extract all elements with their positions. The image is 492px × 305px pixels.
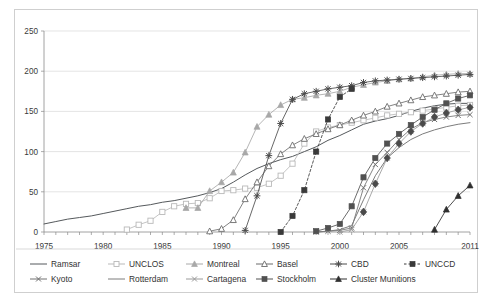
y-tick-label: 0 <box>33 228 38 237</box>
data-point-marker <box>432 226 438 232</box>
data-point-marker <box>325 85 332 92</box>
data-point-marker <box>219 226 225 232</box>
x-tick-label: 1975 <box>35 242 54 251</box>
data-point-marker <box>432 107 437 112</box>
data-point-marker <box>230 217 236 223</box>
data-point-marker <box>124 227 129 232</box>
data-point-marker <box>455 72 462 79</box>
data-point-marker <box>219 179 225 185</box>
legend-label: Kyoto <box>51 274 73 284</box>
data-point-marker <box>385 113 390 118</box>
x-tick-label: 2000 <box>331 242 350 251</box>
y-axis-tick-labels: 050100150200250 <box>24 27 38 237</box>
data-point-marker <box>431 73 438 80</box>
data-point-marker <box>278 102 284 108</box>
data-point-marker <box>384 77 391 84</box>
data-point-marker <box>265 152 272 159</box>
x-tick-label: 1990 <box>212 242 231 251</box>
data-point-marker <box>290 213 295 218</box>
legend-label: Basel <box>277 259 298 269</box>
data-point-marker <box>114 262 119 267</box>
series-line <box>127 105 470 230</box>
legend-label: Rotterdam <box>129 274 168 284</box>
data-point-marker <box>313 88 320 95</box>
data-point-marker <box>335 261 342 268</box>
data-point-marker <box>373 162 378 167</box>
data-point-marker <box>373 155 378 160</box>
y-tick-label: 50 <box>29 188 39 197</box>
chart-legend: RamsarUNCLOSMontrealBaselCBDUNCCDKyotoRo… <box>16 249 476 284</box>
legend-label: UNCCD <box>425 259 455 269</box>
data-point-marker <box>385 141 390 146</box>
data-point-marker <box>361 175 366 180</box>
x-tick-label: 2011 <box>461 242 479 251</box>
legend-item-rotterdam[interactable]: Rotterdam <box>108 274 168 284</box>
data-point-marker <box>243 186 248 191</box>
data-point-marker <box>410 262 415 267</box>
legend-item-cartagena[interactable]: Cartagena <box>186 274 246 284</box>
legend-item-unclos[interactable]: UNCLOS <box>108 259 164 269</box>
data-point-marker <box>231 188 236 193</box>
data-point-marker <box>290 161 295 166</box>
data-point-marker <box>396 76 403 83</box>
legend-item-montreal[interactable]: Montreal <box>186 259 240 269</box>
data-point-marker <box>302 188 307 193</box>
legend-item-stockholm[interactable]: Stockholm <box>256 274 316 284</box>
x-tick-label: 1985 <box>153 242 172 251</box>
data-point-marker <box>254 192 261 199</box>
legend-item-kyoto[interactable]: Kyoto <box>30 274 73 284</box>
x-tick-label: 1980 <box>94 242 113 251</box>
data-point-marker <box>314 149 319 154</box>
legend-item-unccd[interactable]: UNCCD <box>404 259 455 269</box>
data-point-marker <box>207 196 212 201</box>
legend-label: Stockholm <box>277 274 316 284</box>
line-chart: 050100150200250 197519801985199019952000… <box>0 0 492 305</box>
data-point-marker <box>290 142 296 148</box>
data-point-marker <box>420 114 425 119</box>
data-point-marker <box>207 188 213 194</box>
data-series-group <box>44 70 473 234</box>
data-point-marker <box>242 149 248 155</box>
data-point-marker <box>467 71 474 78</box>
legend-item-cluster-munitions[interactable]: Cluster Munitions <box>330 274 416 284</box>
data-point-marker <box>419 74 426 81</box>
legend-item-ramsar[interactable]: Ramsar <box>30 259 81 269</box>
data-point-marker <box>325 117 330 122</box>
series-cluster-munitions <box>432 182 474 232</box>
y-tick-label: 100 <box>24 148 38 157</box>
series-ramsar <box>44 103 470 224</box>
series-line <box>281 89 352 232</box>
data-point-marker <box>407 75 414 82</box>
series-kyoto <box>314 112 473 235</box>
data-point-marker <box>314 229 319 234</box>
data-point-marker <box>325 225 330 230</box>
data-point-marker <box>349 204 354 209</box>
data-point-marker <box>373 115 378 120</box>
legend-item-basel[interactable]: Basel <box>256 259 298 269</box>
y-tick-label: 200 <box>24 67 38 76</box>
data-point-marker <box>242 227 249 234</box>
legend-label: Ramsar <box>51 259 81 269</box>
data-point-marker <box>396 111 401 116</box>
data-point-marker <box>467 182 473 188</box>
series-line <box>316 115 470 232</box>
data-point-marker <box>349 86 354 91</box>
data-point-marker <box>136 222 141 227</box>
series-cartagena <box>337 105 472 235</box>
data-point-marker <box>277 120 284 127</box>
legend-item-cbd[interactable]: CBD <box>330 259 369 269</box>
data-point-marker <box>219 188 224 193</box>
y-tick-label: 250 <box>24 27 38 36</box>
data-point-marker <box>467 93 472 98</box>
data-point-marker <box>360 79 367 86</box>
series-line <box>44 103 470 224</box>
data-point-marker <box>444 101 449 106</box>
data-point-marker <box>456 96 461 101</box>
series-unccd <box>278 86 354 234</box>
data-point-marker <box>160 209 165 214</box>
data-point-marker <box>289 96 296 103</box>
data-point-marker <box>278 229 283 234</box>
data-point-marker <box>408 122 413 127</box>
data-point-marker <box>337 94 342 99</box>
legend-label: Cartagena <box>207 274 246 284</box>
